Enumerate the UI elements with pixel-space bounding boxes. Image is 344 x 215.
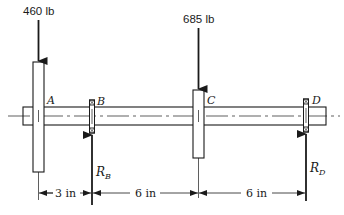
dimension-label-a-b: 3 in [55,187,76,200]
gear-a [33,62,44,200]
point-label-d: D [311,94,321,107]
reaction-label-rd: RD [309,161,326,177]
gear-c [193,90,204,198]
bearing-d [304,99,309,132]
reaction-label-rb: RB [95,165,111,181]
load-label-a: 460 lb [23,5,54,17]
point-label-a: A [46,94,55,107]
shaft-diagram: 460 lb A B RB 685 lb C [0,0,344,215]
dimension-label-b-c: 6 in [135,187,156,200]
load-label-c: 685 lb [183,13,214,25]
dimension-label-c-d: 6 in [246,187,267,200]
point-label-b: B [96,95,105,108]
point-label-c: C [207,94,216,107]
bearing-b [90,100,95,133]
